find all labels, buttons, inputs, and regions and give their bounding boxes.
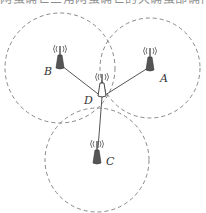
tower-b-icon (54, 45, 67, 69)
link-d-c (98, 97, 102, 148)
links (62, 66, 148, 148)
base-station-diagram: B A D C (0, 0, 206, 213)
label-d: D (83, 94, 93, 107)
label-c: C (106, 155, 115, 168)
label-a: A (159, 72, 168, 85)
tower-a-icon (144, 47, 157, 71)
tower-c-icon (91, 140, 104, 164)
link-d-a (102, 68, 148, 97)
label-b: B (43, 65, 52, 78)
coverage-circles (5, 13, 200, 212)
link-d-b (62, 66, 102, 97)
